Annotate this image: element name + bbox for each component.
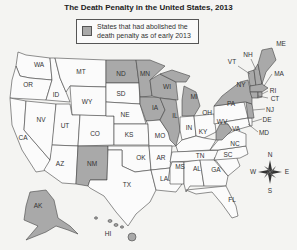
svg-text:OR: OR bbox=[23, 81, 33, 88]
svg-text:AR: AR bbox=[156, 154, 165, 161]
svg-text:WY: WY bbox=[82, 98, 93, 105]
svg-text:SC: SC bbox=[223, 151, 232, 158]
svg-text:LA: LA bbox=[160, 175, 169, 182]
svg-text:NV: NV bbox=[36, 116, 46, 123]
svg-text:ID: ID bbox=[53, 91, 60, 98]
svg-text:KY: KY bbox=[199, 128, 208, 135]
us-map: WA OR CA ID NV MT WY UT AZ CO NM ND SD N… bbox=[0, 0, 297, 250]
svg-text:CT: CT bbox=[271, 95, 280, 102]
svg-text:MN: MN bbox=[140, 70, 150, 77]
svg-text:NJ: NJ bbox=[266, 106, 274, 113]
svg-text:VT: VT bbox=[228, 58, 236, 65]
state-ME bbox=[258, 48, 276, 84]
svg-text:PA: PA bbox=[227, 100, 236, 107]
svg-text:NH: NH bbox=[243, 51, 253, 58]
svg-text:WV: WV bbox=[217, 118, 228, 125]
svg-text:AZ: AZ bbox=[56, 160, 64, 167]
svg-text:MI: MI bbox=[190, 93, 197, 100]
svg-text:WI: WI bbox=[163, 83, 171, 90]
svg-text:E: E bbox=[285, 168, 290, 175]
svg-text:TN: TN bbox=[196, 152, 205, 159]
svg-text:HI: HI bbox=[105, 230, 112, 237]
svg-text:VA: VA bbox=[232, 125, 241, 132]
svg-text:NM: NM bbox=[87, 160, 97, 167]
svg-text:MT: MT bbox=[76, 68, 85, 75]
svg-text:FL: FL bbox=[228, 196, 236, 203]
svg-text:CA: CA bbox=[18, 134, 28, 141]
svg-text:OH: OH bbox=[202, 109, 212, 116]
svg-text:AL: AL bbox=[193, 165, 201, 172]
svg-text:NY: NY bbox=[236, 81, 246, 88]
svg-text:GA: GA bbox=[211, 166, 221, 173]
svg-text:MS: MS bbox=[175, 163, 185, 170]
svg-text:UT: UT bbox=[61, 122, 70, 129]
state-MI bbox=[182, 86, 200, 116]
svg-text:MA: MA bbox=[274, 70, 284, 77]
svg-text:N: N bbox=[268, 151, 273, 158]
svg-text:AK: AK bbox=[34, 202, 43, 209]
svg-text:WA: WA bbox=[34, 61, 45, 68]
svg-text:IL: IL bbox=[172, 112, 178, 119]
svg-text:NC: NC bbox=[230, 140, 240, 147]
svg-text:SD: SD bbox=[116, 90, 125, 97]
state-RI bbox=[258, 92, 262, 98]
state-AK bbox=[24, 190, 78, 240]
svg-text:TX: TX bbox=[123, 181, 132, 188]
svg-text:KS: KS bbox=[125, 131, 134, 138]
svg-text:ME: ME bbox=[276, 40, 286, 47]
svg-text:S: S bbox=[268, 187, 273, 194]
svg-text:IN: IN bbox=[186, 124, 193, 131]
svg-text:IA: IA bbox=[152, 104, 159, 111]
svg-text:RI: RI bbox=[270, 87, 277, 94]
svg-text:CO: CO bbox=[90, 130, 100, 137]
compass-rose-icon: N S E W bbox=[250, 151, 290, 194]
svg-text:MO: MO bbox=[155, 132, 165, 139]
svg-text:W: W bbox=[250, 168, 257, 175]
svg-text:DE: DE bbox=[262, 116, 272, 123]
svg-text:OK: OK bbox=[136, 154, 146, 161]
svg-text:NE: NE bbox=[120, 111, 130, 118]
svg-text:ND: ND bbox=[116, 70, 126, 77]
svg-text:MD: MD bbox=[259, 129, 269, 136]
